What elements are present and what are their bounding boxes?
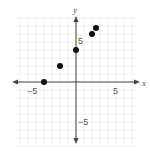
- x-axis-right-arrow-icon: [134, 80, 140, 85]
- y-tick-label-neg5: −5: [78, 117, 88, 127]
- data-point: [89, 31, 95, 37]
- x-axis-label: x: [141, 78, 146, 88]
- x-tick-label-5: 5: [113, 86, 118, 96]
- y-axis-label: y: [72, 5, 77, 15]
- data-point: [73, 47, 79, 53]
- x-axis-left-arrow-icon: [12, 80, 18, 85]
- y-axis-up-arrow-icon: [74, 16, 79, 22]
- coordinate-plane: y x −5 5 5 −5: [0, 0, 150, 156]
- x-tick-label-neg5: −5: [27, 86, 37, 96]
- axes: [12, 16, 140, 144]
- y-axis-down-arrow-icon: [74, 138, 79, 144]
- data-point: [93, 25, 99, 31]
- y-tick-label-5: 5: [78, 36, 83, 46]
- data-point: [41, 79, 47, 85]
- data-point: [57, 63, 63, 69]
